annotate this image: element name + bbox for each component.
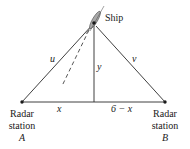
side-u-line — [22, 23, 94, 102]
station-a-line2: station — [0, 120, 44, 132]
side-v-label: v — [132, 53, 136, 64]
base-6-minus-x-label: 6 − x — [111, 103, 132, 114]
station-a-label: Radar station A — [0, 108, 44, 144]
base-x-label: x — [57, 103, 61, 114]
height-y-label: y — [97, 61, 101, 72]
station-b-label: Radar station B — [143, 108, 187, 144]
dashed-track-line — [62, 30, 89, 86]
station-b-name: B — [143, 132, 187, 144]
side-v-line — [96, 26, 165, 102]
station-a-line1: Radar — [0, 108, 44, 120]
station-b-dot — [163, 100, 166, 103]
ship-label: Ship — [105, 12, 123, 23]
station-b-line1: Radar — [143, 108, 187, 120]
station-a-name: A — [0, 132, 44, 144]
station-b-line2: station — [143, 120, 187, 132]
side-u-label: u — [50, 53, 55, 64]
ship-icon — [86, 6, 104, 34]
station-a-dot — [20, 100, 23, 103]
